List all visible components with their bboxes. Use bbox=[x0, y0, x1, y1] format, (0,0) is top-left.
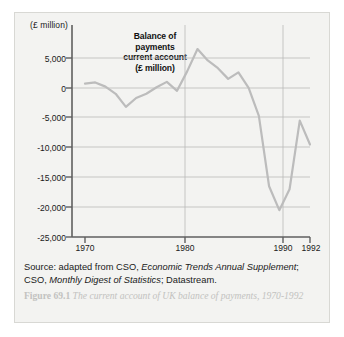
source-suffix: ; Datastream. bbox=[161, 275, 217, 285]
figure-caption: Figure 69.1 The current account of UK ba… bbox=[24, 290, 324, 302]
chart-area: (£ million) Balance of payments current … bbox=[0, 0, 344, 258]
gridlines-horizontal bbox=[72, 58, 310, 207]
x-axis-ticks bbox=[85, 237, 310, 243]
figure-number: Figure 69.1 bbox=[24, 290, 70, 301]
source-note: Source: adapted from CSO, Economic Trend… bbox=[24, 261, 324, 286]
gridlines-vertical bbox=[185, 25, 283, 237]
source-italic-2: Monthly Digest of Statistics bbox=[49, 275, 161, 285]
figure-page: (£ million) Balance of payments current … bbox=[0, 0, 344, 337]
y-axis-ticks bbox=[66, 58, 72, 237]
figure-caption-text: The current account of UK balance of pay… bbox=[70, 290, 303, 301]
source-prefix: Source: adapted from CSO, bbox=[24, 262, 141, 272]
line-chart-plot bbox=[0, 0, 344, 258]
source-italic-1: Economic Trends Annual Supplement bbox=[141, 262, 296, 272]
data-series-line bbox=[85, 49, 310, 210]
